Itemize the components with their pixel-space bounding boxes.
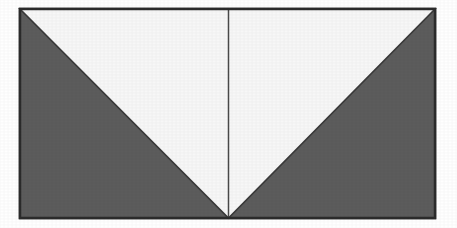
figure-canvas: Rectangle divided into a white inverted …	[0, 0, 457, 228]
geometric-figure: Rectangle divided into a white inverted …	[0, 0, 457, 228]
